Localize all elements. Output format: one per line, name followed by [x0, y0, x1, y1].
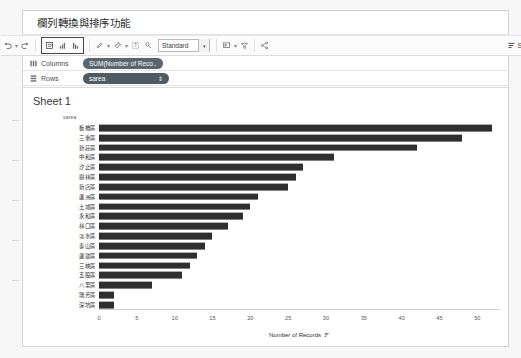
fit-select-value: Standard [162, 42, 188, 49]
swap-rows-columns-icon[interactable] [43, 37, 56, 54]
x-tick-label: 15 [209, 315, 215, 321]
columns-shelf-label: Columns [23, 60, 83, 67]
bar-mark[interactable] [99, 164, 303, 171]
bar-mark[interactable] [99, 154, 334, 161]
bar-mark[interactable] [99, 262, 190, 269]
bar-mark[interactable] [99, 301, 114, 308]
highlighter-icon[interactable] [238, 37, 251, 54]
bar-row: 蘆洲區 [31, 192, 500, 202]
bar-row-label[interactable]: 土城區 [31, 203, 99, 211]
bar-mark[interactable] [99, 134, 462, 141]
bar-row: 汐止區 [31, 162, 500, 172]
bar-row-label[interactable]: 五股區 [31, 271, 99, 279]
pill-sum-number-of-records[interactable]: SUM(Number of Reco.. [83, 58, 163, 69]
bar-row: 土城區 [31, 202, 500, 212]
chevron-down-icon[interactable]: ▾ [198, 39, 209, 52]
bar-row-label[interactable]: 淡水區 [31, 232, 99, 240]
bar-row-label[interactable]: 蘆歆區 [31, 252, 99, 260]
bar-row: 泰山區 [31, 241, 500, 251]
show-me-button[interactable]: Sho [507, 41, 521, 50]
bar-track [99, 143, 500, 153]
bar-mark[interactable] [99, 223, 228, 230]
rows-shelf[interactable]: Rows sarea ⇕ [23, 71, 508, 86]
bar-mark[interactable] [99, 282, 152, 289]
plot-area: 板橋區三重區新莊區中和區汐止區樹林區新店區蘆洲區土城區永和區林口區淡水區泰山區蘆… [31, 123, 500, 310]
bar-track [99, 270, 500, 280]
bar-chart: sarea 板橋區三重區新莊區中和區汐止區樹林區新店區蘆洲區土城區永和區林口區淡… [31, 114, 500, 340]
bar-track [99, 202, 500, 212]
bar-row-label[interactable]: 蘆洲區 [31, 193, 99, 201]
bar-mark[interactable] [99, 242, 205, 249]
bar-mark[interactable] [99, 125, 492, 132]
bar-row-label[interactable]: 泰山區 [31, 242, 99, 250]
bar-track [99, 162, 500, 172]
bar-row-label[interactable]: 中和區 [31, 153, 99, 161]
bar-mark[interactable] [99, 233, 212, 240]
bar-track [99, 133, 500, 143]
bar-row-label[interactable]: 深坑區 [31, 301, 99, 309]
pill-sarea-text: sarea [89, 75, 105, 82]
bar-row: 林口區 [31, 221, 500, 231]
bar-mark[interactable] [99, 193, 258, 200]
undo-icon[interactable] [1, 37, 14, 54]
sort-descending-icon[interactable] [69, 37, 82, 54]
bar-mark[interactable] [99, 144, 417, 151]
show-me-icon [507, 41, 516, 50]
group-members-icon[interactable] [111, 37, 124, 54]
rows-icon [30, 75, 37, 82]
bar-row-label[interactable]: 八里區 [31, 281, 99, 289]
pill-sarea[interactable]: sarea ⇕ [83, 73, 169, 84]
bar-track [99, 290, 500, 300]
share-icon[interactable] [258, 37, 271, 54]
category-axis-header: sarea [63, 114, 77, 120]
svg-text:T: T [134, 43, 137, 48]
bar-row-label[interactable]: 新莊區 [31, 144, 99, 152]
bar-mark[interactable] [99, 174, 296, 181]
bar-row-label[interactable]: 樹林區 [31, 173, 99, 181]
bar-row: 永和區 [31, 211, 500, 221]
bar-row-label[interactable]: 瑞芳區 [31, 291, 99, 299]
bar-mark[interactable] [99, 252, 197, 259]
presentation-mode-icon[interactable] [220, 37, 233, 54]
bar-track [99, 172, 500, 182]
bar-mark[interactable] [99, 213, 243, 220]
bar-row: 蘆歆區 [31, 251, 500, 261]
columns-label-text: Columns [41, 60, 69, 67]
columns-shelf[interactable]: Columns SUM(Number of Reco.. [23, 56, 508, 71]
bar-row: 八里區 [31, 280, 500, 290]
bar-mark[interactable] [99, 292, 114, 299]
rows-shelf-label: Rows [23, 75, 83, 82]
bar-row-label[interactable]: 三峽區 [31, 262, 99, 270]
window-top-edge [0, 0, 521, 10]
sort-ascending-icon[interactable] [56, 37, 69, 54]
show-mark-labels-icon[interactable]: T [129, 37, 142, 54]
workbook-title-bar: 欄列轉換與排序功能 [23, 11, 508, 35]
x-axis-title: Number of Records [99, 332, 500, 338]
x-tick-label: 20 [247, 315, 253, 321]
bar-row: 新莊區 [31, 143, 500, 153]
bar-row: 樹林區 [31, 172, 500, 182]
bar-row-label[interactable]: 永和區 [31, 212, 99, 220]
bar-track [99, 123, 500, 133]
bar-row-label[interactable]: 板橋區 [31, 124, 99, 132]
worksheet-view: Sheet 1 sarea 板橋區三重區新莊區中和區汐止區樹林區新店區蘆洲區土城… [23, 87, 508, 346]
bar-row-label[interactable]: 三重區 [31, 134, 99, 142]
bar-row-label[interactable]: 汐止區 [31, 163, 99, 171]
bar-row-label[interactable]: 新店區 [31, 183, 99, 191]
bar-mark[interactable] [99, 183, 288, 190]
x-tick-label: 45 [436, 315, 442, 321]
workbook-title: 欄列轉換與排序功能 [37, 15, 131, 30]
bar-track [99, 261, 500, 271]
bar-row: 三重區 [31, 133, 500, 143]
bar-row: 新店區 [31, 182, 500, 192]
fix-axes-icon[interactable] [142, 37, 155, 54]
bar-row-label[interactable]: 林口區 [31, 222, 99, 230]
redo-icon[interactable] [19, 37, 32, 54]
bar-mark[interactable] [99, 203, 250, 210]
bar-mark[interactable] [99, 272, 182, 279]
tableau-window: 欄列轉換與排序功能 ▾ [0, 0, 521, 358]
highlight-icon[interactable] [93, 37, 106, 54]
bar-row: 五股區 [31, 270, 500, 280]
bar-row: 淡水區 [31, 231, 500, 241]
fit-select[interactable]: Standard ▾ [158, 39, 210, 52]
